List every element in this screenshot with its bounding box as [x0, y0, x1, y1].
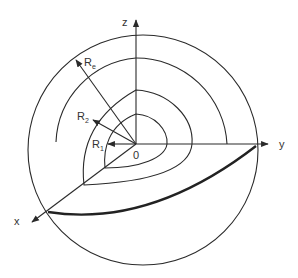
y-axis-label: y [279, 138, 285, 150]
outer-sphere [28, 35, 258, 265]
sphere-diagram: z y x 0 Re R2 R1 [0, 0, 298, 278]
label-re: Re [84, 56, 96, 70]
x-axis-label: x [14, 215, 20, 227]
shell-re-arc [56, 58, 227, 144]
origin-label: 0 [133, 149, 139, 161]
radius-re-arrow [76, 60, 136, 144]
equator-arc [48, 146, 256, 215]
label-r2: R2 [77, 110, 89, 124]
z-axis-label: z [122, 16, 128, 28]
label-r1: R1 [92, 138, 104, 152]
